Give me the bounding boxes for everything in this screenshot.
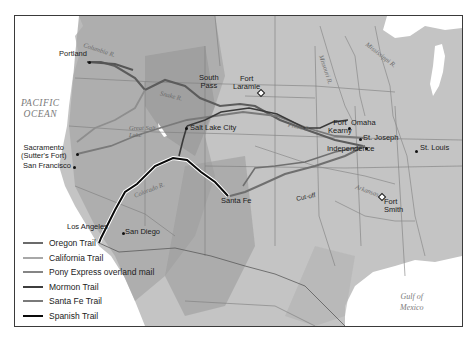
salt-lake-city-marker <box>185 127 188 130</box>
california-trail-swatch <box>23 257 43 259</box>
san-diego-marker <box>122 232 125 235</box>
pony-express-swatch <box>23 271 43 273</box>
independence-marker <box>365 147 368 150</box>
legend-label: Pony Express overland mail <box>49 267 154 277</box>
legend-label: California Trail <box>49 253 103 263</box>
legend-label: Oregon Trail <box>49 238 96 248</box>
legend-item-spanish-trail: Spanish Trail <box>23 309 154 324</box>
fort-laramie-label: Fort Laramie <box>233 75 260 91</box>
fort-smith-line2: Smith <box>384 206 403 214</box>
santa-fe-label: Santa Fe <box>221 197 251 205</box>
legend-label: Mormon Trail <box>49 282 99 292</box>
mormon-trail-swatch <box>23 286 43 288</box>
gulf-label-line1: Gulf of <box>400 291 424 302</box>
st-joseph-label: St. Joseph <box>363 134 398 142</box>
gulf-of-mexico-label: Gulf of Mexico <box>400 291 424 313</box>
gulf-label-line2: Mexico <box>400 302 424 313</box>
pacific-label-line2: OCEAN <box>21 109 60 120</box>
south-pass-line2: Pass <box>199 82 219 90</box>
portland-label: Portland <box>59 50 87 58</box>
st-louis-label: St. Louis <box>420 144 449 152</box>
san-francisco-marker <box>73 166 76 169</box>
salt-lake-city-label: Salt Lake City <box>190 124 236 132</box>
legend-label: Santa Fe Trail <box>49 296 102 306</box>
omaha-marker <box>348 127 351 130</box>
santa-fe-trail-swatch <box>23 300 43 302</box>
fort-smith-label: Fort Smith <box>384 198 403 214</box>
pacific-ocean-label: PACIFIC OCEAN <box>21 98 60 120</box>
san-diego-label: San Diego <box>125 228 160 236</box>
legend-item-oregon-trail: Oregon Trail <box>23 236 154 251</box>
great-salt-lake-label: Great Salt Lake <box>129 124 165 138</box>
south-pass-label: South Pass <box>199 74 219 90</box>
los-angeles-label: Los Angeles <box>67 223 108 231</box>
omaha-label: Omaha <box>351 119 376 127</box>
trails-map: PACIFIC OCEAN Gulf of Mexico Columbia R.… <box>14 15 463 327</box>
legend-item-santa-fe-trail: Santa Fe Trail <box>23 294 154 309</box>
san-francisco-label: San Francisco <box>23 162 71 170</box>
fort-laramie-line2: Laramie <box>233 83 260 91</box>
st-louis-marker <box>415 150 418 153</box>
legend-item-mormon-trail: Mormon Trail <box>23 280 154 295</box>
pacific-label-line1: PACIFIC <box>21 98 60 109</box>
legend-item-california-trail: California Trail <box>23 251 154 266</box>
spanish-trail-swatch <box>23 315 43 317</box>
sacramento-marker <box>76 153 79 156</box>
st-joseph-marker <box>359 138 362 141</box>
legend-item-pony-express: Pony Express overland mail <box>23 265 154 280</box>
sacramento-label: Sacramento (Sutter's Fort) <box>21 144 67 160</box>
legend-label: Spanish Trail <box>49 311 98 321</box>
sacramento-line2: (Sutter's Fort) <box>21 152 67 160</box>
portland-marker <box>88 61 91 64</box>
trail-legend: Oregon Trail California Trail Pony Expre… <box>23 236 154 323</box>
oregon-trail-swatch <box>23 242 43 244</box>
